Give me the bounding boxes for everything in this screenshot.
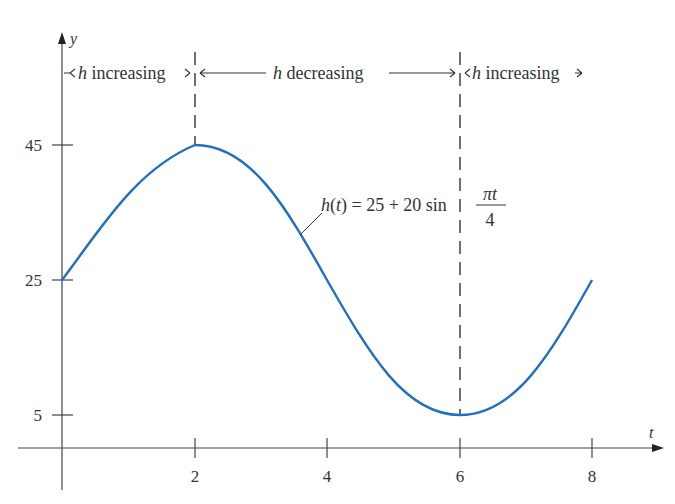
interval-label-increasing-2: h increasing bbox=[472, 63, 559, 83]
x-axis-label: t bbox=[649, 424, 654, 441]
y-tick-label: 5 bbox=[34, 406, 43, 425]
axes bbox=[18, 40, 655, 490]
formula-lhs: h(t) = 25 + 20 sin bbox=[321, 195, 447, 216]
series-line-h bbox=[62, 145, 592, 415]
x-axis-arrow-icon bbox=[652, 444, 664, 452]
formula-denominator: 4 bbox=[486, 210, 495, 230]
x-tick-label: 6 bbox=[456, 467, 465, 486]
y-axis-label: y bbox=[68, 30, 78, 48]
x-tick-label: 2 bbox=[191, 467, 200, 486]
formula-leader-line bbox=[300, 213, 322, 235]
interval-label-decreasing: h decreasing bbox=[273, 63, 363, 83]
chart: y t 2 4 6 8 5 25 45 h increasing h decre… bbox=[0, 0, 675, 504]
x-tick-label: 4 bbox=[323, 467, 332, 486]
formula-numerator: πt bbox=[483, 184, 498, 204]
x-tick-label: 8 bbox=[588, 467, 597, 486]
y-tick-label: 45 bbox=[25, 136, 42, 155]
interval-label-increasing-1: h increasing bbox=[78, 63, 165, 83]
y-axis-arrow-icon bbox=[58, 32, 66, 44]
y-tick-label: 25 bbox=[25, 271, 42, 290]
